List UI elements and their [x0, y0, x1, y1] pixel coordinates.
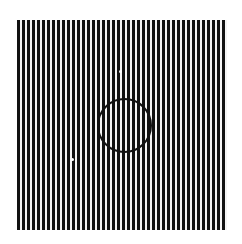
circle-outline: [97, 98, 152, 153]
white-dot-upper: [119, 70, 122, 73]
white-dot-lower: [71, 158, 74, 161]
